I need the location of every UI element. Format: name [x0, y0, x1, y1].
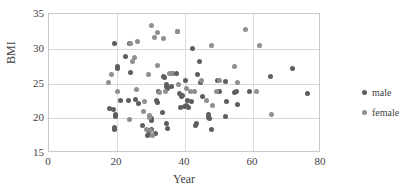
x-axis-tick-labels: 020406080 — [0, 0, 415, 193]
x-tick-label: 40 — [164, 156, 204, 167]
scatter-chart: BMI 1520253035 020406080 Year malefemale — [0, 0, 415, 193]
chart-legend: malefemale — [362, 82, 399, 122]
x-tick-label: 80 — [300, 156, 340, 167]
x-tick-label: 20 — [96, 156, 136, 167]
x-tick-label: 0 — [28, 156, 68, 167]
legend-marker-icon — [362, 110, 367, 115]
legend-item-female[interactable]: female — [362, 102, 399, 122]
legend-label: male — [372, 87, 391, 98]
legend-label: female — [372, 107, 399, 118]
legend-marker-icon — [362, 90, 367, 95]
legend-item-male[interactable]: male — [362, 82, 399, 102]
x-axis-title: Year — [48, 172, 320, 187]
x-tick-label: 60 — [232, 156, 272, 167]
